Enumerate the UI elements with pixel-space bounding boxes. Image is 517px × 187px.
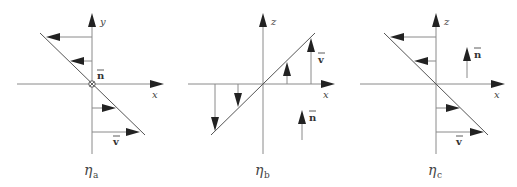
velocity-arrowhead-left-icon: [390, 33, 404, 41]
velocity-arrowhead-up-icon: [283, 62, 291, 76]
velocity-label: v: [112, 136, 120, 147]
z-axis-label: z: [443, 16, 450, 27]
x-axis-label: x: [323, 89, 329, 100]
x-axis-arrowhead-icon: [321, 80, 335, 88]
normal-into-page-icon: [89, 81, 95, 87]
panel-c: z x n v η c: [360, 13, 505, 180]
velocity-arrowhead-right-icon: [126, 128, 140, 136]
viscosity-diagram-figure: y x n v η a z x: [0, 0, 517, 187]
z-axis-arrowhead-icon: [432, 13, 440, 27]
panel-b: z x v n η b: [188, 13, 335, 180]
x-axis-arrowhead-icon: [491, 80, 505, 88]
caption-subscript-b: b: [264, 170, 270, 180]
velocity-arrowhead-down-icon: [234, 93, 242, 107]
normal-label: n: [309, 112, 317, 123]
caption-eta-c: η: [428, 162, 437, 178]
x-axis-label: x: [494, 89, 500, 100]
x-axis-label: x: [152, 89, 158, 100]
caption-eta-a: η: [84, 162, 93, 178]
normal-arrowhead-up-icon: [298, 110, 306, 124]
caption-eta-b: η: [255, 162, 264, 178]
velocity-arrowhead-left-icon: [46, 33, 60, 41]
caption-subscript-a: a: [93, 170, 99, 180]
caption-subscript-c: c: [437, 170, 442, 180]
z-axis-label: z: [270, 16, 277, 27]
velocity-label: v: [455, 136, 463, 147]
z-axis-arrowhead-icon: [259, 13, 267, 27]
normal-arrowhead-up-icon: [463, 47, 471, 61]
velocity-label: v: [317, 54, 325, 65]
x-axis-arrowhead-icon: [150, 80, 164, 88]
normal-label: n: [97, 70, 105, 81]
y-axis-label: y: [99, 16, 106, 27]
normal-label: n: [474, 49, 482, 60]
y-axis-arrowhead-icon: [88, 13, 96, 27]
panel-a: y x n v η a: [17, 13, 164, 180]
